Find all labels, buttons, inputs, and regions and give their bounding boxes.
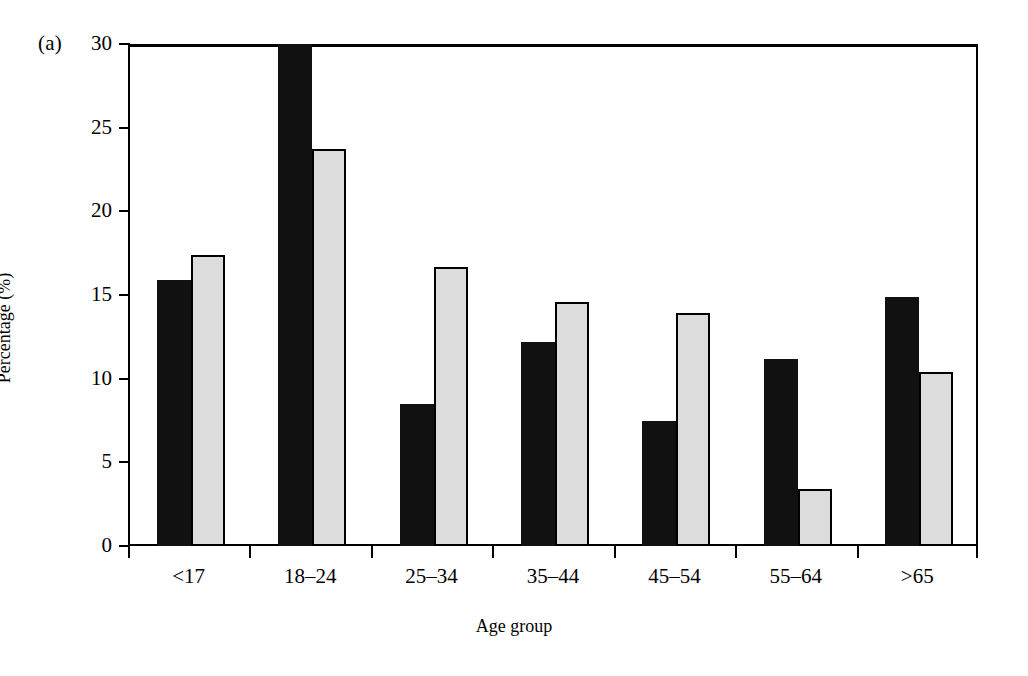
y-tick-label: 20 — [58, 198, 112, 222]
y-tick-label: 15 — [58, 282, 112, 306]
bar — [400, 404, 434, 546]
x-tick-label: 18–24 — [240, 563, 380, 589]
bar — [798, 489, 832, 546]
y-tick-label: 10 — [58, 366, 112, 390]
y-tick-label: 25 — [58, 115, 112, 139]
x-axis-label: Age group — [0, 616, 1028, 637]
x-tick-label: >65 — [847, 563, 987, 589]
x-tick-label: 35–44 — [483, 563, 623, 589]
x-tick-mark — [249, 546, 251, 558]
bar — [885, 297, 919, 546]
bar — [555, 302, 589, 546]
x-tick-mark — [371, 546, 373, 558]
x-tick-mark — [735, 546, 737, 558]
x-tick-label: <17 — [119, 563, 259, 589]
bar — [919, 372, 953, 546]
bar — [278, 44, 312, 546]
bar — [764, 359, 798, 546]
bar — [157, 280, 191, 546]
bar — [191, 255, 225, 546]
x-tick-mark — [976, 546, 978, 558]
x-tick-label: 55–64 — [726, 563, 866, 589]
bar — [312, 149, 346, 546]
figure-panel: (a) Percentage (%) 051015202530 <1718–24… — [0, 0, 1028, 676]
bars-layer — [128, 44, 978, 546]
bar — [676, 313, 710, 546]
y-tick-label: 5 — [58, 449, 112, 473]
x-tick-label: 45–54 — [604, 563, 744, 589]
y-axis-label: Percentage (%) — [0, 228, 15, 428]
x-tick-mark — [857, 546, 859, 558]
y-tick-label: 30 — [58, 31, 112, 55]
x-tick-mark — [492, 546, 494, 558]
bar — [434, 267, 468, 546]
x-tick-mark — [614, 546, 616, 558]
bar — [521, 342, 555, 546]
x-tick-mark — [128, 546, 130, 558]
x-tick-label: 25–34 — [362, 563, 502, 589]
y-tick-label: 0 — [58, 533, 112, 557]
bar — [642, 421, 676, 547]
